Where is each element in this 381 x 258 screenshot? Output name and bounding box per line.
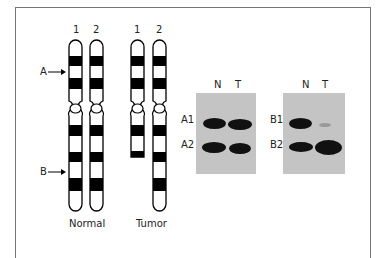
- normal-chromosome-2-label: 2: [93, 25, 99, 35]
- band-b1-t: [319, 123, 331, 127]
- normal-caption: Normal: [69, 218, 105, 229]
- arrow-b-icon: [48, 169, 66, 175]
- blot-a-lane-t-label: T: [235, 80, 241, 90]
- tumor-chromosome-1: [130, 40, 144, 157]
- tumor-chromosome-1-label: 1: [134, 25, 140, 35]
- band-b2-n: [289, 142, 313, 152]
- arrow-a-icon: [48, 69, 66, 75]
- blot-a-lane-n-label: N: [214, 80, 221, 90]
- normal-chromosome-1: [68, 40, 82, 211]
- normal-chromosome-2: [89, 40, 103, 211]
- band-a1-n: [203, 118, 226, 129]
- blot-b-lane-n-label: N: [302, 80, 309, 90]
- tumor-chromosome-2-label: 2: [156, 25, 162, 35]
- row-a2-label: A2: [181, 140, 194, 150]
- blot-a-gel: [196, 93, 256, 174]
- band-b2-t: [315, 140, 342, 155]
- marker-a-label: A: [40, 67, 47, 77]
- marker-b-label: B: [40, 167, 47, 177]
- normal-chromosome-1-label: 1: [73, 25, 79, 35]
- row-a1-label: A1: [181, 115, 194, 125]
- band-b1-n: [289, 118, 312, 129]
- tumor-chromosome-2: [152, 40, 166, 211]
- row-b1-label: B1: [270, 115, 283, 125]
- blot-b-lane-t-label: T: [322, 80, 328, 90]
- band-a2-t: [229, 143, 251, 154]
- blot-b-gel: [283, 93, 345, 174]
- tumor-caption: Tumor: [136, 218, 167, 229]
- band-a2-n: [202, 142, 226, 153]
- band-a1-t: [228, 119, 252, 130]
- row-b2-label: B2: [270, 140, 283, 150]
